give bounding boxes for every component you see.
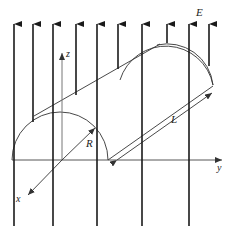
front-arc — [12, 112, 108, 160]
label-field-e: E — [195, 6, 203, 18]
label-radius: R — [85, 137, 93, 149]
label-z: z — [65, 48, 70, 59]
figure-canvas: E z R L y x — [0, 0, 227, 239]
label-x: x — [15, 193, 21, 204]
back-arc — [120, 46, 213, 85]
half-cylinder-diagram: E z R L y x — [0, 0, 227, 239]
x-axis — [28, 160, 62, 195]
label-y: y — [216, 162, 222, 173]
label-length: L — [170, 113, 177, 125]
length-dimension-arrow — [117, 93, 212, 160]
cylinder-bottom-edge — [108, 86, 213, 160]
field-lines — [14, 24, 209, 226]
